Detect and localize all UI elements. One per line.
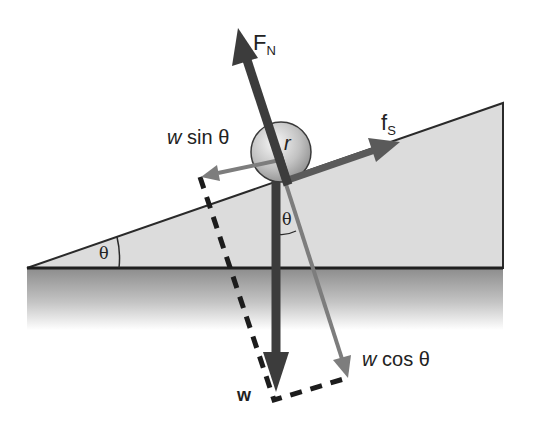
w-sin-label: w sin θ [167, 127, 229, 147]
normal-force-subscript: N [266, 43, 275, 58]
incline-force-diagram: FN fS w sin θ w cos θ w r θ θ [0, 0, 536, 430]
w-sin-arrowhead [201, 165, 220, 181]
w-cos-text: cos θ [382, 348, 430, 370]
ground [27, 268, 503, 330]
w-cos-label: w cos θ [362, 349, 430, 369]
normal-force-label: FN [253, 32, 276, 54]
diagram-svg [0, 0, 536, 430]
weight-label: w [237, 386, 251, 404]
vertical-angle-label: θ [282, 212, 292, 228]
incline-angle-label: θ [99, 246, 109, 262]
normal-force-symbol: F [253, 30, 266, 55]
radius-label: r [284, 133, 291, 153]
w-sin-variable: w [167, 126, 181, 148]
w-cos-arrowhead [333, 355, 351, 378]
w-cos-variable: w [362, 348, 376, 370]
w-sin-text: sin θ [187, 126, 229, 148]
friction-label: fS [381, 112, 396, 134]
friction-subscript: S [387, 123, 396, 138]
